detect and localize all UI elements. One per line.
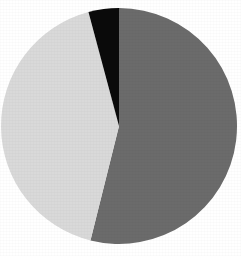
pie-chart-figure — [0, 0, 241, 256]
pie-chart-svg — [0, 0, 241, 256]
pie-slice-group — [1, 8, 237, 244]
